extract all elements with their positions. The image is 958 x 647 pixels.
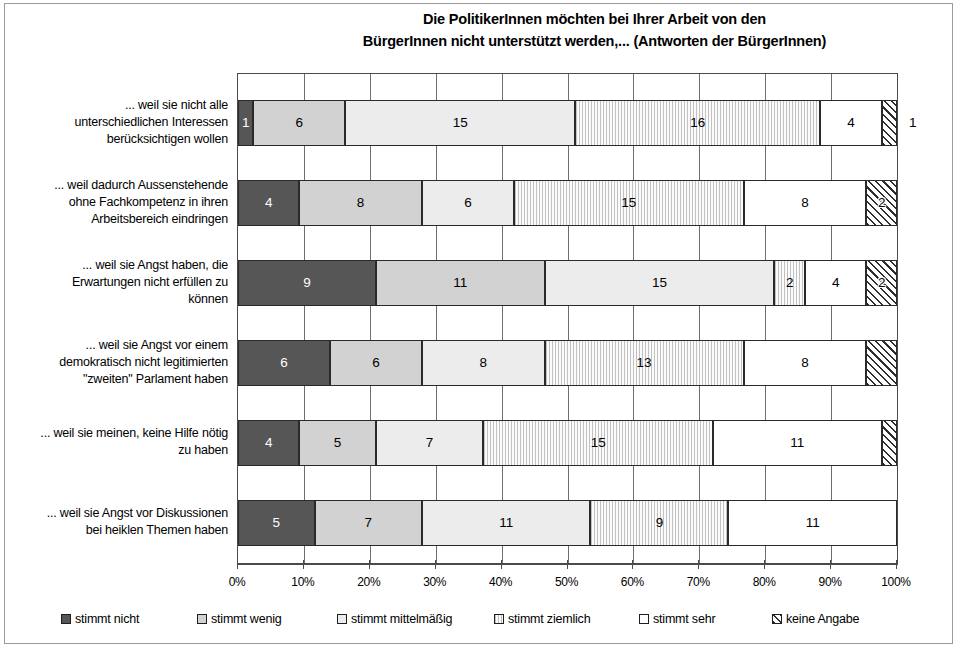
bar-row: 91115242 xyxy=(238,260,897,306)
x-axis-tick-label: 80% xyxy=(753,575,776,589)
bar-segment: 11 xyxy=(713,420,882,466)
bar-value-label: 9 xyxy=(656,516,664,530)
legend-swatch-icon xyxy=(494,614,504,624)
x-axis-tick-label: 10% xyxy=(291,575,314,589)
bar-value-label: 11 xyxy=(499,516,513,530)
stacked-bars: 1615164148615829111524266813845715115711… xyxy=(238,74,897,563)
category-label-line: ... weil sie Angst haben, die xyxy=(6,257,228,274)
bar-segment: 1 xyxy=(238,100,253,146)
bar-value-label: 11 xyxy=(790,436,804,450)
bar-segment: 7 xyxy=(376,420,483,466)
bar-segment xyxy=(882,100,897,146)
bar-row: 16151641 xyxy=(238,100,897,146)
bar-segment: 16 xyxy=(575,100,820,146)
legend-item[interactable]: keine Angabe xyxy=(772,609,859,629)
legend-item[interactable]: stimmt wenig xyxy=(197,609,282,629)
category-axis-labels: ... weil sie nicht alleunterschiedlichen… xyxy=(8,73,234,564)
category-label-line: ... weil sie meinen, keine Hilfe nötig xyxy=(6,425,228,442)
bar-segment: 5 xyxy=(299,420,376,466)
bar-value-label-outside: 1 xyxy=(909,100,917,146)
bar-segment xyxy=(882,420,897,466)
category-label-line: "zweiten" Parlament haben xyxy=(6,371,228,388)
bar-value-label: 6 xyxy=(464,196,472,210)
bar-value-label: 5 xyxy=(334,436,342,450)
bar-value-label: 9 xyxy=(303,276,311,290)
bar-segment: 7 xyxy=(315,500,422,546)
bar-segment: 8 xyxy=(744,180,867,226)
x-axis-tick-label: 40% xyxy=(489,575,512,589)
bar-segment: 13 xyxy=(545,340,744,386)
category-label-line: können xyxy=(6,291,228,308)
legend-item[interactable]: stimmt ziemlich xyxy=(494,609,590,629)
bar-row: 4861582 xyxy=(238,180,897,226)
bar-row: 668138 xyxy=(238,340,897,386)
legend-item[interactable]: stimmt mittelmäßig xyxy=(337,609,452,629)
bar-value-label: 7 xyxy=(365,516,373,530)
bar-value-label: 15 xyxy=(591,436,606,450)
bar-segment: 6 xyxy=(238,340,330,386)
bar-value-label: 1 xyxy=(242,116,250,130)
bar-segment: 8 xyxy=(422,340,545,386)
x-axis-tick xyxy=(567,560,568,569)
bar-segment: 6 xyxy=(253,100,345,146)
bar-value-label: 4 xyxy=(265,196,273,210)
bar-segment: 8 xyxy=(744,340,867,386)
category-label: ... weil dadurch Aussenstehendeohne Fach… xyxy=(6,177,228,228)
category-label-line: bei heiklen Themen haben xyxy=(6,522,228,539)
x-axis-tick xyxy=(830,560,831,569)
bar-segment: 15 xyxy=(514,180,744,226)
category-label-line: Erwartungen nicht erfüllen zu xyxy=(6,274,228,291)
bar-row: 5711911 xyxy=(238,500,897,546)
category-label-line: demokratisch nicht legitimierten xyxy=(6,354,228,371)
category-label: ... weil sie Angst vor einemdemokratisch… xyxy=(6,337,228,388)
bar-segment: 4 xyxy=(238,180,299,226)
x-axis-tick-label: 50% xyxy=(555,575,578,589)
category-label-line: berücksichtigen wollen xyxy=(6,131,228,148)
bar-segment: 2 xyxy=(866,260,897,306)
bar-value-label: 7 xyxy=(426,436,434,450)
legend-item[interactable]: stimmt nicht xyxy=(61,609,139,629)
bar-value-label: 15 xyxy=(453,116,468,130)
bar-value-label: 8 xyxy=(357,196,365,210)
bar-segment: 4 xyxy=(238,420,299,466)
category-label-line: ... weil sie Angst vor einem xyxy=(6,337,228,354)
x-axis-tick xyxy=(896,560,897,569)
legend-item[interactable]: stimmt sehr xyxy=(639,609,715,629)
bar-segment: 8 xyxy=(299,180,422,226)
bar-segment: 15 xyxy=(483,420,713,466)
chart-screenshot: Die PolitikerInnen möchten bei Ihrer Arb… xyxy=(0,0,958,647)
legend-swatch-icon xyxy=(337,614,347,624)
x-axis: 0%10%20%30%40%50%60%70%80%90%100% xyxy=(237,564,898,598)
x-axis-tick xyxy=(369,560,370,569)
bar-value-label: 6 xyxy=(296,116,304,130)
legend-swatch-icon xyxy=(772,614,782,624)
bar-value-label: 2 xyxy=(786,276,794,290)
x-axis-tick xyxy=(435,560,436,569)
bar-value-label: 2 xyxy=(878,196,886,210)
legend-swatch-icon xyxy=(61,614,71,624)
category-label-line: ... weil sie nicht alle xyxy=(6,97,228,114)
bar-value-label: 15 xyxy=(621,196,636,210)
x-axis-tick xyxy=(632,560,633,569)
x-axis-line xyxy=(237,564,898,565)
bar-segment: 6 xyxy=(330,340,422,386)
bar-segment: 9 xyxy=(590,500,728,546)
x-axis-tick-label: 100% xyxy=(881,575,911,589)
bar-segment: 4 xyxy=(805,260,866,306)
bar-value-label: 4 xyxy=(847,116,855,130)
category-label-line: zu haben xyxy=(6,442,228,459)
bar-value-label: 16 xyxy=(690,116,705,130)
bar-value-label: 11 xyxy=(806,516,820,530)
bar-value-label: 6 xyxy=(280,356,288,370)
category-label-line: ... weil dadurch Aussenstehende xyxy=(6,177,228,194)
bar-segment xyxy=(866,340,897,386)
bar-value-label: 2 xyxy=(878,276,886,290)
bar-segment: 15 xyxy=(345,100,575,146)
legend-label: stimmt sehr xyxy=(653,612,715,626)
bar-value-label: 4 xyxy=(832,276,840,290)
bar-value-label: 5 xyxy=(273,516,281,530)
legend-label: stimmt ziemlich xyxy=(508,612,590,626)
legend-label: keine Angabe xyxy=(786,612,859,626)
bar-value-label: 11 xyxy=(453,276,467,290)
x-axis-tick-label: 90% xyxy=(819,575,842,589)
